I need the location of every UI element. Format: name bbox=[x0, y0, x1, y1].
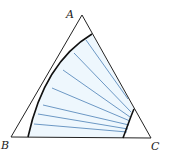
vertex-label-a: A bbox=[66, 8, 74, 21]
vertex-label-c: C bbox=[151, 140, 159, 153]
vertex-label-b: B bbox=[1, 139, 9, 152]
ternary-diagram bbox=[0, 0, 171, 159]
